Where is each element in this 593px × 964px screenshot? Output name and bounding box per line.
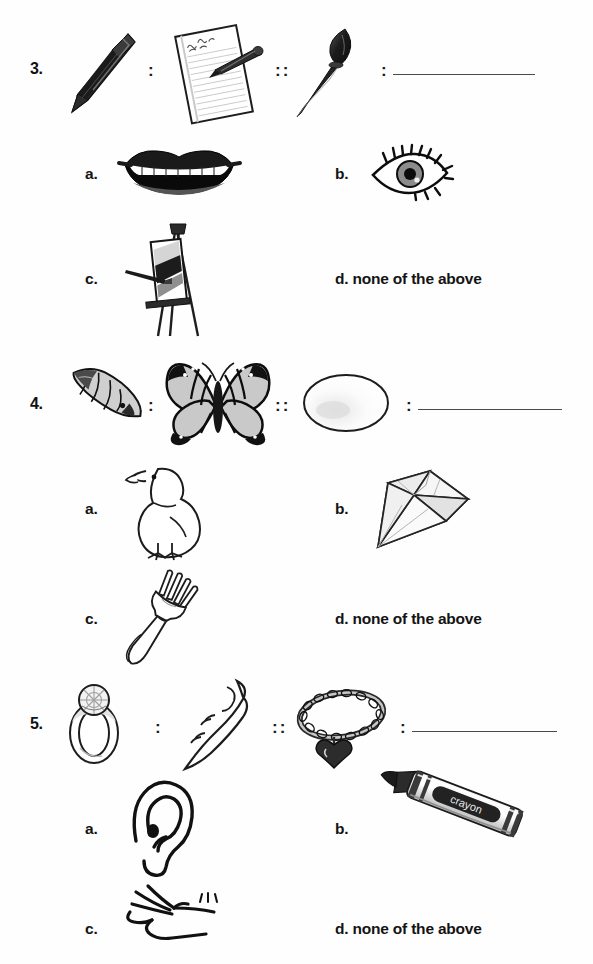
pen-icon bbox=[62, 28, 142, 118]
option-c-label-q5: c. bbox=[85, 920, 98, 938]
option-d-text-q3[interactable]: d. none of the above bbox=[335, 270, 482, 288]
question-5-number: 5. bbox=[30, 715, 43, 733]
diamond-icon[interactable] bbox=[368, 465, 478, 555]
analogy-separator-final: : bbox=[381, 62, 388, 79]
analogy-separator-double-q4: :: bbox=[275, 397, 290, 414]
analogy-separator-single-q4: : bbox=[148, 397, 155, 414]
chick-icon[interactable] bbox=[118, 455, 213, 560]
answer-blank-4[interactable] bbox=[418, 409, 562, 410]
butterfly-icon bbox=[163, 355, 273, 455]
finger-icon bbox=[175, 675, 260, 775]
notepad-with-pen-icon bbox=[163, 22, 268, 127]
option-a-label-q5: a. bbox=[85, 820, 98, 838]
egg-icon bbox=[300, 370, 392, 436]
analogy-separator-final-q4: : bbox=[406, 397, 413, 414]
ear-icon[interactable] bbox=[120, 775, 205, 875]
question-4-number: 4. bbox=[30, 395, 43, 413]
answer-blank-5[interactable] bbox=[412, 731, 557, 732]
easel-icon[interactable] bbox=[120, 218, 230, 338]
analogy-separator-single: : bbox=[148, 62, 155, 79]
answer-blank-3[interactable] bbox=[393, 74, 535, 75]
mouth-icon[interactable] bbox=[117, 143, 242, 198]
analogy-separator-final-q5: : bbox=[400, 719, 407, 736]
option-b-label-q3: b. bbox=[335, 165, 349, 183]
fork-icon[interactable] bbox=[115, 567, 205, 677]
option-d-text-q5[interactable]: d. none of the above bbox=[335, 920, 482, 938]
option-a-label-q3: a. bbox=[85, 165, 98, 183]
question-3-number: 3. bbox=[30, 60, 43, 78]
paintbrush-icon bbox=[285, 25, 365, 120]
caterpillar-icon bbox=[62, 363, 152, 433]
worksheet-page: 3. : bbox=[0, 0, 593, 964]
analogy-separator-single-q5: : bbox=[155, 719, 162, 736]
option-c-label-q4: c. bbox=[85, 610, 98, 628]
hand-icon[interactable] bbox=[118, 880, 238, 950]
option-b-label-q5: b. bbox=[335, 820, 349, 838]
eye-icon[interactable] bbox=[365, 145, 455, 200]
question-3: 3. : bbox=[0, 0, 593, 345]
bracelet-icon bbox=[290, 683, 395, 768]
option-d-text-q4[interactable]: d. none of the above bbox=[335, 610, 482, 628]
crayon-icon[interactable]: crayon bbox=[368, 775, 548, 855]
analogy-separator-double-q5: :: bbox=[272, 719, 287, 736]
ring-icon bbox=[58, 678, 138, 768]
question-4: 4. : bbox=[0, 345, 593, 675]
option-a-label-q4: a. bbox=[85, 500, 98, 518]
option-c-label-q3: c. bbox=[85, 270, 98, 288]
option-b-label-q4: b. bbox=[335, 500, 349, 518]
question-5: 5. bbox=[0, 675, 593, 964]
